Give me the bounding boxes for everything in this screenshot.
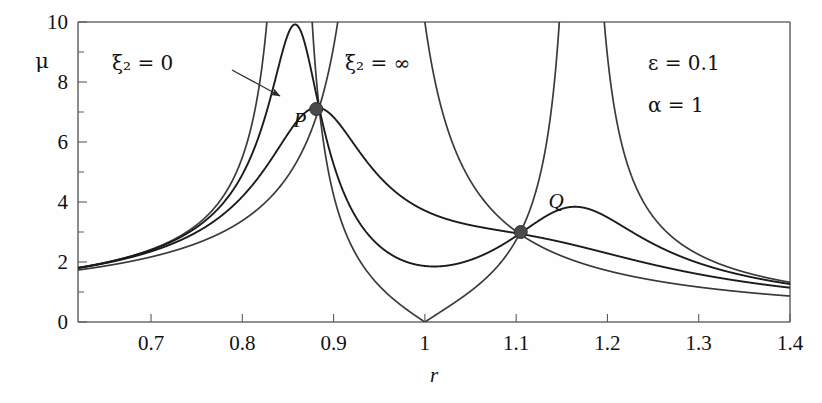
figure-container: 0.70.80.911.11.21.31.4 0246810 r μ ξ₂ = …: [0, 0, 822, 403]
x-tick-label: 0.9: [320, 331, 346, 355]
x-tick-labels: 0.70.80.911.11.21.31.4: [138, 331, 804, 355]
curve-xi-020: [78, 108, 790, 288]
callout-arrow-xi-zero: [232, 70, 280, 96]
invariant-points: [310, 103, 527, 239]
y-tick-labels: 0246810: [47, 10, 69, 334]
curve-xi-zero: [78, 0, 790, 322]
curve-xi-infinity: [78, 0, 790, 296]
x-tick-label: 0.7: [138, 331, 164, 355]
x-tick-label: 1.2: [594, 331, 620, 355]
resonance-chart: 0.70.80.911.11.21.31.4 0246810 r μ ξ₂ = …: [0, 0, 822, 403]
point-label-q: Q: [548, 189, 563, 213]
point-label-p: P: [293, 108, 307, 132]
invariant-point-q: [514, 226, 527, 239]
x-tick-label: 1.1: [503, 331, 529, 355]
parameter-alpha: α = 1: [648, 93, 704, 117]
y-axis-title: μ: [35, 49, 49, 73]
x-tick-label: 1: [420, 331, 431, 355]
y-tick-label: 8: [58, 70, 69, 94]
x-tick-label: 1.3: [686, 331, 712, 355]
y-tick-label: 0: [58, 310, 69, 334]
x-tick-label: 0.8: [229, 331, 255, 355]
x-axis-title: r: [430, 363, 439, 387]
y-axis-ticks: [78, 22, 87, 322]
y-tick-label: 2: [58, 250, 69, 274]
y-tick-label: 6: [58, 130, 69, 154]
curve-group: [78, 0, 790, 322]
x-axis-ticks: [151, 314, 790, 322]
annotation-xi-infinity: ξ₂ = ∞: [345, 51, 410, 75]
y-tick-label: 4: [58, 190, 69, 214]
x-tick-label: 1.4: [777, 331, 804, 355]
parameter-epsilon: ε = 0.1: [648, 51, 720, 75]
invariant-point-p: [310, 103, 323, 116]
y-tick-label: 10: [47, 10, 68, 34]
annotation-xi-zero: ξ₂ = 0: [112, 51, 173, 75]
